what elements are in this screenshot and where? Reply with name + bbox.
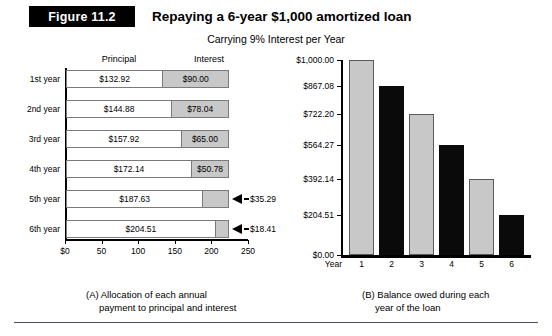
table-row[interactable]: $172.14 $50.78 bbox=[66, 160, 229, 178]
panel-b-y-tick bbox=[337, 255, 342, 256]
panel-b-x-tick-label: 1 bbox=[347, 259, 377, 269]
left-arrow-icon bbox=[232, 194, 242, 204]
panel-a-x-tick bbox=[175, 240, 176, 244]
panel-b-caption-line1: (B) Balance owed during each bbox=[362, 289, 489, 300]
interest-segment: $65.00 bbox=[182, 130, 230, 148]
panel-a-caption-line2: payment to principal and interest bbox=[86, 301, 236, 314]
panel-a-row-label: 6th year bbox=[0, 220, 60, 238]
panel-a-x-tick-label: 100 bbox=[118, 246, 158, 256]
column-header-principal: Principal bbox=[88, 54, 150, 64]
panel-b-y-tick-label: $204.51 bbox=[276, 210, 334, 220]
panel-a-row-label: 4th year bbox=[0, 160, 60, 178]
principal-segment: $144.88 bbox=[66, 100, 172, 118]
figure-title: Repaying a 6-year $1,000 amortized loan bbox=[152, 6, 412, 27]
panel-b-x-tick-label: 5 bbox=[467, 259, 497, 269]
panel-b-y-tick-label: $867.08 bbox=[276, 81, 334, 91]
column-header-interest: Interest bbox=[178, 54, 240, 64]
panel-a-x-tick bbox=[65, 240, 66, 244]
panel-b-caption: (B) Balance owed during each year of the… bbox=[362, 288, 489, 314]
principal-segment: $132.92 bbox=[66, 70, 163, 88]
principal-segment: $172.14 bbox=[66, 160, 192, 178]
panel-a-x-tick bbox=[248, 240, 249, 244]
figure-number-badge: Figure 11.2 bbox=[29, 6, 135, 27]
panel-a-caption: (A) Allocation of each annual payment to… bbox=[86, 288, 236, 314]
table-row[interactable]: $204.51 bbox=[66, 220, 229, 238]
panel-b-y-tick-label: $564.27 bbox=[276, 140, 334, 150]
interest-segment bbox=[203, 190, 229, 208]
panel-a-x-axis-line bbox=[65, 239, 248, 241]
balance-bar-year-1[interactable] bbox=[349, 60, 374, 255]
interest-callout-year5: $35.29 bbox=[232, 190, 276, 208]
panel-a-row-label: 3rd year bbox=[0, 130, 60, 148]
panel-b-y-tick bbox=[337, 114, 342, 115]
panel-b-y-tick-label: $1,000.00 bbox=[276, 55, 334, 65]
table-row[interactable]: $187.63 bbox=[66, 190, 229, 208]
panel-a-x-tick-label: 50 bbox=[82, 246, 122, 256]
panel-a-x-tick bbox=[211, 240, 212, 244]
balance-bar-year-2[interactable] bbox=[379, 86, 404, 255]
principal-segment: $204.51 bbox=[66, 220, 216, 238]
panel-b-y-tick bbox=[337, 86, 342, 87]
principal-segment: $157.92 bbox=[66, 130, 182, 148]
panel-b-y-tick-label: $722.20 bbox=[276, 109, 334, 119]
panel-b-y-axis-line bbox=[341, 60, 343, 256]
left-arrow-icon bbox=[232, 224, 242, 234]
table-row[interactable]: $132.92 $90.00 bbox=[66, 70, 229, 88]
interest-callout-year6: $18.41 bbox=[232, 220, 276, 238]
leader-line bbox=[244, 198, 249, 200]
panel-b-x-axis-label: Year bbox=[312, 259, 342, 269]
interest-callout-label: $35.29 bbox=[250, 190, 276, 208]
principal-segment: $187.63 bbox=[66, 190, 203, 208]
panel-b-y-tick bbox=[337, 145, 342, 146]
figure-header: Figure 11.2 Repaying a 6-year $1,000 amo… bbox=[0, 0, 552, 32]
balance-bar-year-4[interactable] bbox=[439, 145, 464, 255]
panel-b-bar-chart: $1,000.00 $867.08 $722.20 $564.27 $392.1… bbox=[276, 50, 552, 280]
interest-callout-label: $18.41 bbox=[250, 220, 276, 238]
panel-a-x-tick bbox=[138, 240, 139, 244]
panel-a-row-label: 5th year bbox=[0, 190, 60, 208]
leader-line bbox=[244, 228, 249, 230]
interest-segment: $50.78 bbox=[192, 160, 229, 178]
panel-b-x-tick-label: 3 bbox=[407, 259, 437, 269]
interest-segment bbox=[216, 220, 230, 238]
bottom-divider bbox=[14, 322, 538, 323]
interest-segment: $78.04 bbox=[172, 100, 229, 118]
panel-b-y-tick bbox=[337, 60, 342, 61]
panel-b-x-axis-line bbox=[341, 255, 531, 258]
table-row[interactable]: $144.88 $78.04 bbox=[66, 100, 229, 118]
panel-a-y-axis-line bbox=[65, 68, 67, 240]
panel-a-x-tick-label: 250 bbox=[228, 246, 268, 256]
panel-b-y-tick bbox=[337, 215, 342, 216]
panel-a-x-tick-label: 200 bbox=[191, 246, 231, 256]
balance-bar-year-5[interactable] bbox=[469, 179, 494, 256]
balance-bar-year-6[interactable] bbox=[499, 215, 524, 255]
panel-b-x-tick-label: 4 bbox=[437, 259, 467, 269]
panel-b-x-tick-label: 2 bbox=[377, 259, 407, 269]
panel-a-stacked-bar-chart: Principal Interest 1st year $132.92 $90.… bbox=[0, 50, 276, 280]
panel-a-x-tick-label: $0 bbox=[45, 246, 85, 256]
balance-bar-year-3[interactable] bbox=[409, 114, 434, 255]
panel-a-x-tick-label: 150 bbox=[155, 246, 195, 256]
figure-subtitle: Carrying 9% Interest per Year bbox=[0, 33, 552, 45]
panel-b-y-tick bbox=[337, 179, 342, 180]
panel-b-y-tick-label: $392.14 bbox=[276, 174, 334, 184]
panel-b-x-tick-label: 6 bbox=[497, 259, 527, 269]
panel-a-x-tick bbox=[102, 240, 103, 244]
panel-a-row-label: 1st year bbox=[0, 70, 60, 88]
interest-segment: $90.00 bbox=[163, 70, 229, 88]
panel-a-caption-line1: (A) Allocation of each annual bbox=[86, 289, 207, 300]
panel-a-row-label: 2nd year bbox=[0, 100, 60, 118]
table-row[interactable]: $157.92 $65.00 bbox=[66, 130, 229, 148]
panel-b-caption-line2: year of the loan bbox=[362, 301, 489, 314]
